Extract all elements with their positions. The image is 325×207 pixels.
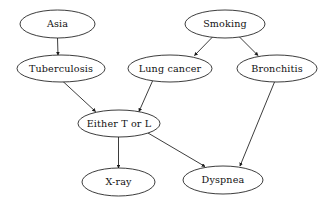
node-xray-label: X-ray: [105, 176, 132, 187]
edge-smoking-to-lung-cancer: [195, 37, 214, 56]
node-either-t-or-l-label: Either T or L: [87, 118, 152, 129]
node-smoking-label: Smoking: [203, 18, 247, 29]
node-tuberculosis-label: Tuberculosis: [29, 63, 93, 74]
edge-smoking-to-bronchitis: [239, 37, 258, 56]
node-asia[interactable]: Asia: [20, 10, 95, 38]
node-dyspnea-label: Dyspnea: [202, 174, 245, 185]
graph-canvas: Asia Smoking Tuberculosis Lung cancer Br…: [0, 0, 325, 207]
edge-lung-cancer-to-either: [139, 81, 153, 112]
node-smoking[interactable]: Smoking: [185, 10, 265, 38]
edge-bronchitis-to-dyspnea: [240, 82, 275, 166]
nodes-layer: Asia Smoking Tuberculosis Lung cancer Br…: [17, 10, 317, 196]
edge-either-to-dyspnea: [148, 133, 205, 167]
node-asia-label: Asia: [46, 18, 68, 29]
node-lung-cancer[interactable]: Lung cancer: [128, 55, 212, 82]
edge-asia-to-tuberculosis: [58, 38, 59, 55]
node-lung-cancer-label: Lung cancer: [139, 63, 202, 74]
node-bronchitis[interactable]: Bronchitis: [237, 55, 317, 82]
node-tuberculosis[interactable]: Tuberculosis: [17, 55, 105, 82]
bayesian-network-diagram: Asia Smoking Tuberculosis Lung cancer Br…: [0, 0, 325, 207]
node-dyspnea[interactable]: Dyspnea: [183, 166, 263, 194]
node-bronchitis-label: Bronchitis: [251, 63, 303, 74]
edge-tuberculosis-to-either: [63, 81, 96, 112]
node-either-t-or-l[interactable]: Either T or L: [78, 110, 160, 137]
node-xray[interactable]: X-ray: [82, 168, 155, 196]
